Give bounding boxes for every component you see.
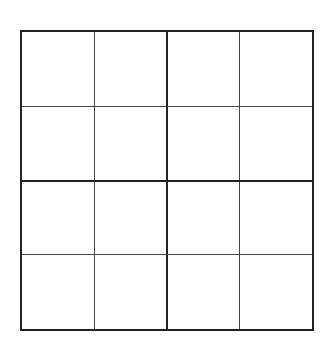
grid-cell[interactable]	[167, 32, 240, 106]
grid-cell[interactable]	[240, 32, 313, 106]
grid-cell[interactable]	[22, 106, 95, 180]
grid-cell[interactable]	[240, 181, 313, 255]
cell-divider-horizontal	[22, 254, 312, 255]
grid-cell[interactable]	[167, 181, 240, 255]
grid-cell[interactable]	[240, 106, 313, 180]
grid-cell[interactable]	[95, 32, 168, 106]
grid-cell[interactable]	[22, 32, 95, 106]
box-divider-horizontal	[22, 180, 312, 182]
grid-cell[interactable]	[167, 106, 240, 180]
grid-cell[interactable]	[95, 106, 168, 180]
cell-divider-horizontal	[22, 106, 312, 107]
grid-cell[interactable]	[22, 181, 95, 255]
sudoku-board	[20, 30, 314, 331]
grid-cell[interactable]	[95, 181, 168, 255]
grid-cell[interactable]	[95, 255, 168, 329]
grid-cell[interactable]	[240, 255, 313, 329]
grid-cell[interactable]	[22, 255, 95, 329]
grid-cell[interactable]	[167, 255, 240, 329]
